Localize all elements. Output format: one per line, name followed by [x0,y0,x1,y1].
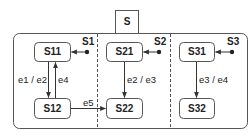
initial-label-s2: S2 [154,37,166,47]
state-s22-label: S22 [116,104,134,114]
composite-state-label: S [124,17,131,27]
transition-label-e3-e4: e3 / e4 [199,75,228,85]
state-s11-label: S11 [44,47,61,57]
state-s32-label: S32 [188,104,206,114]
transition-label-e4: e4 [58,75,69,85]
initial-label-s1: S1 [82,37,94,47]
state-s12-label: S12 [44,104,62,114]
state-diagram: S S11 S12 S21 S22 S31 S32 S1 S2 S3 e1 / … [0,0,252,136]
transition-label-e2-e3: e2 / e3 [127,75,156,85]
state-s21-label: S21 [116,47,134,57]
state-s31-label: S31 [188,47,206,57]
transition-label-e1-e2: e1 / e2 [18,75,47,85]
initial-label-s3: S3 [227,37,239,47]
transition-label-e5: e5 [83,98,94,108]
